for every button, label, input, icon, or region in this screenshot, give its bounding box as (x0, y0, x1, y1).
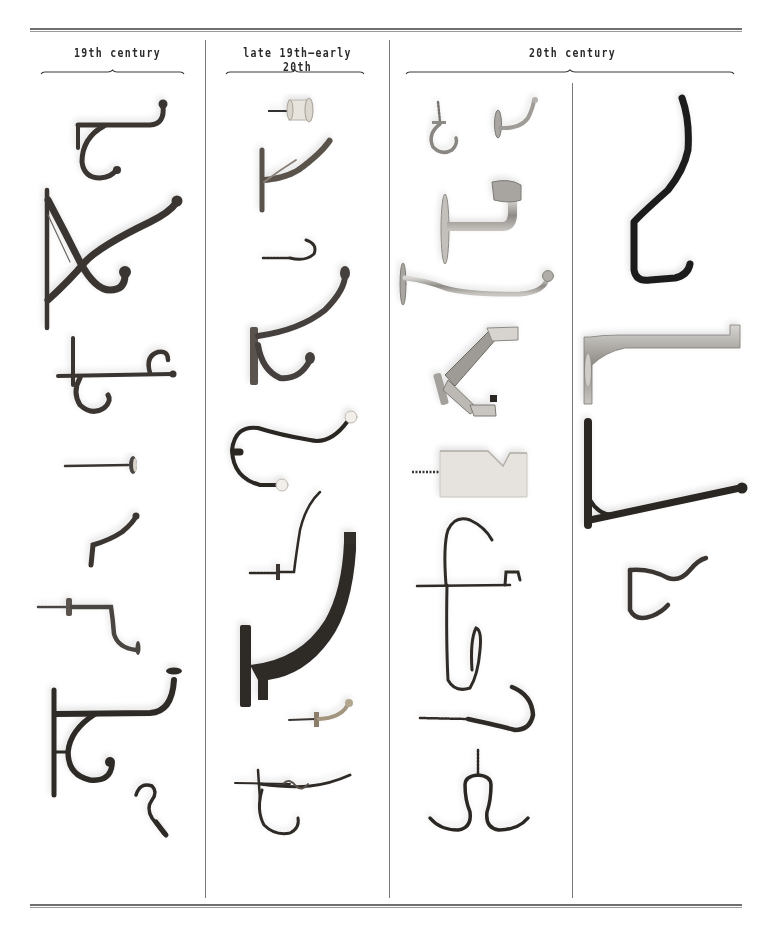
col4-cast-iron-l-bracket (588, 422, 748, 525)
col2-cup-hook (263, 240, 315, 259)
col3-handrail-bracket (441, 181, 521, 264)
col1-porcelain-head-nail (65, 456, 137, 474)
col1-screw-angled-hook (38, 598, 141, 655)
col3-double-s-hook (430, 750, 528, 830)
col1-small-twisted-hook (136, 785, 166, 835)
col4-large-black-hook (634, 98, 690, 280)
col2-porcelain-spool (268, 98, 313, 122)
col4-aluminium-bracket (584, 325, 740, 404)
col2-large-curved-hook (240, 532, 356, 707)
col2-wire-porcelain-hook (232, 411, 357, 491)
col3-long-chrome-ball-hook (400, 263, 554, 305)
col4-small-double-hook (630, 558, 706, 618)
col3-wire-multi-hook (417, 519, 520, 690)
col1-double-coat-hook (78, 100, 168, 179)
col3-chrome-wall-hook (495, 97, 539, 138)
col3-chrome-cup-hook (431, 102, 456, 152)
col3-folding-chrome-hook (433, 327, 518, 416)
col1-small-s-hook (91, 513, 140, 566)
col2-rustic-cast-hook (262, 140, 330, 210)
col3-screw-j-hook (420, 687, 533, 730)
col1-large-double-hook (54, 668, 182, 796)
col2-brass-ball-hook (289, 699, 353, 727)
col1-ornate-bracket-hook (47, 190, 183, 328)
col1-spike-scroll-hook (58, 338, 177, 411)
col2-twisted-wire-hook (235, 770, 350, 834)
hooks-illustration (0, 0, 784, 937)
col2-screw-wire-hook (250, 492, 320, 580)
col3-aluminium-block-hook (412, 451, 527, 497)
col2-double-coat-hook (250, 266, 350, 385)
